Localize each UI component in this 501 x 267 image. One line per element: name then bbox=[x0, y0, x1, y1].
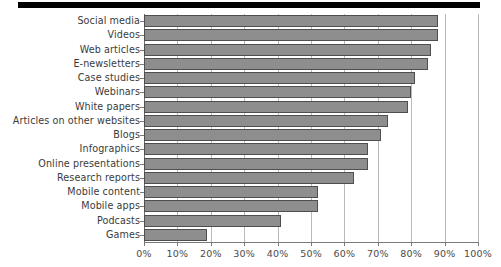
y-tick-mark bbox=[140, 178, 144, 179]
bar-row bbox=[144, 172, 478, 184]
category-label: Articles on other websites bbox=[2, 115, 140, 126]
y-tick-mark bbox=[140, 192, 144, 193]
gridline-100% bbox=[478, 14, 479, 242]
bar-chart: Social mediaVideosWeb articlesE-newslett… bbox=[0, 0, 501, 267]
x-tick-label: 50% bbox=[300, 248, 322, 259]
x-tick-mark bbox=[344, 242, 345, 246]
x-tick-mark bbox=[445, 242, 446, 246]
x-tick-label: 100% bbox=[464, 248, 492, 259]
x-tick-label: 30% bbox=[233, 248, 255, 259]
plot-area bbox=[144, 14, 478, 242]
category-label: Online presentations bbox=[2, 158, 140, 169]
bar bbox=[144, 115, 388, 127]
category-label: Infographics bbox=[2, 143, 140, 154]
y-tick-mark bbox=[140, 78, 144, 79]
x-tick-label: 90% bbox=[434, 248, 456, 259]
x-tick-mark bbox=[378, 242, 379, 246]
category-label: White papers bbox=[2, 101, 140, 112]
bar-row bbox=[144, 215, 478, 227]
bar-row bbox=[144, 115, 478, 127]
bar-row bbox=[144, 58, 478, 70]
y-tick-mark bbox=[140, 121, 144, 122]
y-tick-mark bbox=[140, 221, 144, 222]
x-tick-label: 80% bbox=[400, 248, 422, 259]
x-tick-label: 40% bbox=[267, 248, 289, 259]
bar-row bbox=[144, 200, 478, 212]
bar bbox=[144, 186, 318, 198]
bar-row bbox=[144, 143, 478, 155]
bar bbox=[144, 101, 408, 113]
bar bbox=[144, 158, 368, 170]
x-tick-label: 60% bbox=[334, 248, 356, 259]
bar-row bbox=[144, 158, 478, 170]
y-tick-mark bbox=[140, 164, 144, 165]
y-tick-mark bbox=[140, 64, 144, 65]
bar-row bbox=[144, 229, 478, 241]
bar-row bbox=[144, 129, 478, 141]
category-label: Mobile content bbox=[2, 186, 140, 197]
bar bbox=[144, 86, 411, 98]
bar bbox=[144, 129, 381, 141]
bar-row bbox=[144, 86, 478, 98]
x-tick-mark bbox=[478, 242, 479, 246]
bar bbox=[144, 215, 281, 227]
category-label: E-newsletters bbox=[2, 58, 140, 69]
y-tick-mark bbox=[140, 135, 144, 136]
bar bbox=[144, 72, 415, 84]
category-label: Case studies bbox=[2, 72, 140, 83]
y-tick-mark bbox=[140, 21, 144, 22]
category-label: Blogs bbox=[2, 129, 140, 140]
x-tick-label: 70% bbox=[367, 248, 389, 259]
x-tick-mark bbox=[211, 242, 212, 246]
category-label: Podcasts bbox=[2, 215, 140, 226]
category-label-column: Social mediaVideosWeb articlesE-newslett… bbox=[0, 14, 140, 242]
top-black-rule bbox=[18, 2, 480, 8]
bar bbox=[144, 229, 207, 241]
bar-row bbox=[144, 15, 478, 27]
x-tick-mark bbox=[278, 242, 279, 246]
y-tick-mark bbox=[140, 149, 144, 150]
bar bbox=[144, 44, 431, 56]
bar-row bbox=[144, 44, 478, 56]
y-tick-mark bbox=[140, 206, 144, 207]
bar-row bbox=[144, 101, 478, 113]
bar-row bbox=[144, 29, 478, 41]
category-label: Web articles bbox=[2, 44, 140, 55]
y-tick-mark bbox=[140, 107, 144, 108]
bar-row bbox=[144, 72, 478, 84]
bar bbox=[144, 58, 428, 70]
x-tick-mark bbox=[411, 242, 412, 246]
x-tick-mark bbox=[144, 242, 145, 246]
y-tick-mark bbox=[140, 50, 144, 51]
bar-row bbox=[144, 186, 478, 198]
x-tick-mark bbox=[177, 242, 178, 246]
bar bbox=[144, 15, 438, 27]
x-tick-label: 0% bbox=[136, 248, 151, 259]
x-tick-label: 10% bbox=[167, 248, 189, 259]
category-label: Social media bbox=[2, 15, 140, 26]
category-label: Research reports bbox=[2, 172, 140, 183]
y-tick-mark bbox=[140, 92, 144, 93]
x-tick-mark bbox=[244, 242, 245, 246]
y-tick-mark bbox=[140, 35, 144, 36]
category-label: Games bbox=[2, 229, 140, 240]
bar bbox=[144, 29, 438, 41]
y-tick-mark bbox=[140, 235, 144, 236]
bar bbox=[144, 172, 354, 184]
bar bbox=[144, 143, 368, 155]
x-tick-label: 20% bbox=[200, 248, 222, 259]
category-label: Videos bbox=[2, 29, 140, 40]
category-label: Webinars bbox=[2, 86, 140, 97]
x-tick-mark bbox=[311, 242, 312, 246]
bar bbox=[144, 200, 318, 212]
category-label: Mobile apps bbox=[2, 200, 140, 211]
